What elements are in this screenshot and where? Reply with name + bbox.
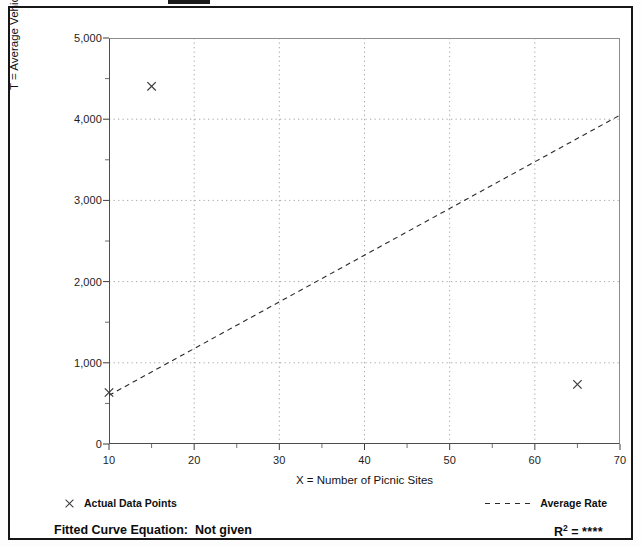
xtick-label-70: 70: [614, 454, 626, 466]
r-squared-equals: =: [568, 525, 582, 539]
ytick-label-1000: 1,000: [52, 357, 102, 369]
dashed-line-icon: [485, 503, 531, 504]
r-squared-value: R2 = ****: [554, 523, 603, 539]
x-axis-title: X = Number of Picnic Sites: [109, 474, 620, 486]
ytick-label-4000: 4,000: [52, 113, 102, 125]
xtick-label-20: 20: [188, 454, 200, 466]
fitted-curve-equation-value: Not given: [195, 523, 252, 537]
x-marker-icon: [64, 498, 75, 509]
xtick-label-30: 30: [273, 454, 285, 466]
plot-area: [109, 38, 620, 444]
legend-label-actual-data-points: Actual Data Points: [84, 497, 177, 509]
chart-legend: Actual Data Points Average Rate: [10, 494, 631, 520]
r-squared-symbol: R: [554, 525, 563, 539]
chart-series: [109, 38, 620, 444]
data-point-markers: [105, 82, 582, 397]
ytick-label-5000: 5,000: [52, 32, 102, 44]
chart-footer: Fitted Curve Equation: Not given R2 = **…: [10, 523, 631, 547]
scanned-page: 5,000 4,000 3,000 2,000 1,000 0 10 20 30…: [0, 0, 641, 547]
fitted-curve-equation: Fitted Curve Equation: Not given: [54, 523, 252, 537]
average-rate-trendline: [109, 115, 620, 395]
legend-item-actual-data-points: Actual Data Points: [64, 497, 177, 509]
legend-item-average-rate: Average Rate: [485, 497, 607, 509]
figure-frame: 5,000 4,000 3,000 2,000 1,000 0 10 20 30…: [8, 6, 633, 540]
xtick-label-60: 60: [529, 454, 541, 466]
y-axis-title: T = Average Vehicle Trip Ends: [8, 0, 20, 128]
data-point: [573, 380, 581, 388]
ytick-label-3000: 3,000: [52, 194, 102, 206]
ytick-label-0: 0: [52, 438, 102, 450]
legend-label-average-rate: Average Rate: [540, 497, 607, 509]
page-top-artifact: [168, 0, 210, 4]
xtick-label-50: 50: [443, 454, 455, 466]
ytick-label-2000: 2,000: [52, 276, 102, 288]
xtick-label-10: 10: [103, 454, 115, 466]
data-point: [105, 388, 113, 396]
xtick-label-40: 40: [358, 454, 370, 466]
data-point: [147, 82, 155, 90]
fitted-curve-equation-label: Fitted Curve Equation:: [54, 523, 188, 537]
r-squared-stars: ****: [582, 525, 603, 539]
